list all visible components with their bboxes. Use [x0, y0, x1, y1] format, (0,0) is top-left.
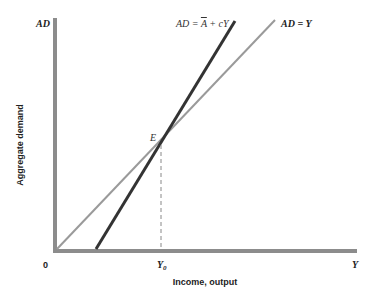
origin-label: 0	[43, 260, 48, 270]
equilibrium-label: E	[149, 132, 156, 143]
x-axis	[53, 249, 357, 253]
ad-schedule-label: AD = A + cY	[175, 18, 230, 29]
y-axis-title: Aggregate demand	[15, 104, 25, 186]
y-axis-top-label: AD	[35, 18, 50, 29]
ad-schedule-line	[96, 21, 235, 249]
x-axis-right-label: Y	[352, 259, 359, 270]
y-axis	[53, 18, 57, 253]
ad-equals-y-label: AD = Y	[280, 18, 312, 29]
chart-canvas: AD AD = A + cY AD = Y E 0 Y0 Y Income, o…	[0, 0, 372, 298]
x-axis-title: Income, output	[173, 277, 238, 287]
y0-tick-label: Y0	[157, 259, 167, 272]
